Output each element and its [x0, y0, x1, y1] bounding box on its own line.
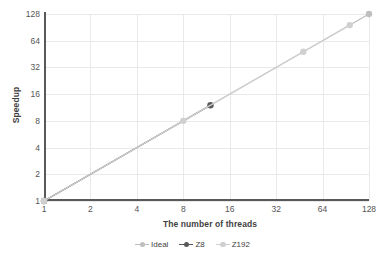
x-axis-tick-label: 64 — [318, 204, 327, 214]
x-axis-tick-label: 4 — [134, 204, 139, 214]
legend-item-z8[interactable]: Z8 — [179, 240, 204, 249]
legend-marker-icon — [135, 241, 149, 249]
legend-marker-icon — [216, 241, 230, 249]
speedup-chart: Speedup 1248163264128 1248163264128 The … — [0, 0, 385, 264]
gridline-horizontal — [44, 201, 369, 202]
x-axis-tick-label: 16 — [225, 204, 234, 214]
chart-legend: IdealZ8Z192 — [0, 240, 385, 249]
x-axis-tick-labels: 1248163264128 — [44, 204, 369, 218]
gridline-vertical — [369, 14, 370, 201]
x-axis-tick-label: 8 — [181, 204, 186, 214]
x-axis-tick-label: 128 — [362, 204, 376, 214]
legend-item-z192[interactable]: Z192 — [216, 240, 250, 249]
legend-label: Z192 — [232, 240, 250, 249]
y-axis-tick-label: 1 — [6, 196, 40, 206]
plot-area — [44, 14, 369, 201]
x-axis-title-text: The number of threads — [163, 219, 257, 229]
series-layer — [44, 14, 369, 201]
y-axis-tick-label: 16 — [6, 89, 40, 99]
y-axis-tick-label: 8 — [6, 116, 40, 126]
legend-label: Z8 — [195, 240, 204, 249]
x-axis-tick-label: 1 — [42, 204, 47, 214]
data-point — [366, 11, 372, 17]
y-axis-tick-label: 32 — [6, 62, 40, 72]
y-axis-tick-label: 4 — [6, 143, 40, 153]
x-axis-title: The number of threads — [45, 219, 375, 229]
legend-label: Ideal — [151, 240, 168, 249]
y-axis-tick-labels: 1248163264128 — [0, 14, 40, 201]
data-point — [180, 118, 186, 124]
y-axis-tick-label: 2 — [6, 169, 40, 179]
series-z192 — [41, 22, 353, 204]
x-axis-tick-label: 2 — [88, 204, 93, 214]
data-point — [347, 22, 353, 28]
y-axis-tick-label: 128 — [6, 9, 40, 19]
x-axis-tick-label: 32 — [271, 204, 280, 214]
y-axis-tick-label: 64 — [6, 36, 40, 46]
data-point — [300, 49, 306, 55]
legend-marker-icon — [179, 241, 193, 249]
legend-item-ideal[interactable]: Ideal — [135, 240, 168, 249]
